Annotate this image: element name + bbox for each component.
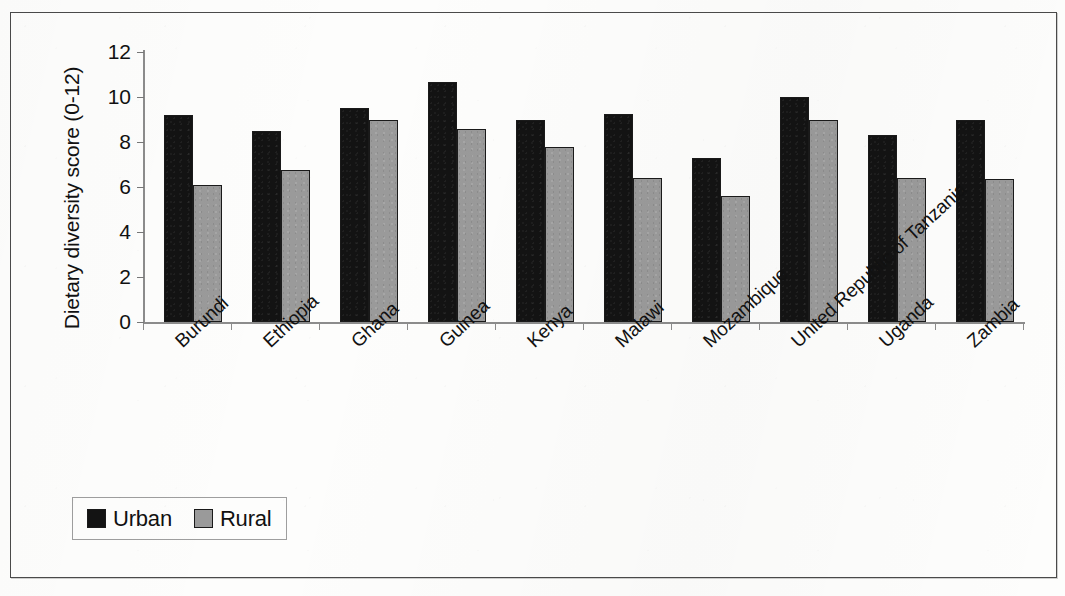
y-axis-title: Dietary diversity score (0-12)	[60, 48, 84, 348]
bar-urban-burundi	[164, 115, 193, 322]
bar-urban-mozambique	[692, 158, 721, 322]
legend-label: Rural	[220, 506, 272, 532]
chart-page: Dietary diversity score (0-12) 121086420…	[0, 0, 1065, 596]
legend-item-urban: Urban	[87, 506, 172, 532]
y-tick-label: 12	[97, 41, 131, 62]
x-tick-mark	[759, 323, 760, 330]
x-tick-mark	[319, 323, 320, 330]
bar-rural-ghana	[369, 120, 398, 323]
bar-urban-uganda	[868, 135, 897, 322]
y-tick-mark	[137, 142, 144, 143]
y-tick-mark	[137, 52, 144, 53]
x-tick-mark	[495, 323, 496, 330]
y-tick-mark	[137, 277, 144, 278]
x-tick-mark	[847, 323, 848, 330]
x-tick-mark	[1023, 323, 1024, 330]
chart-legend: UrbanRural	[72, 497, 287, 540]
y-tick-label: 8	[97, 131, 131, 152]
x-tick-mark	[231, 323, 232, 330]
x-tick-mark	[583, 323, 584, 330]
y-tick-label: 4	[97, 221, 131, 242]
bar-urban-ghana	[340, 108, 369, 322]
bar-urban-united-republic-of-tanzania	[780, 97, 809, 322]
bar-urban-ethiopia	[252, 131, 281, 322]
legend-label: Urban	[113, 506, 172, 532]
bar-urban-kenya	[516, 120, 545, 323]
y-tick-label: 2	[97, 266, 131, 287]
bar-rural-guinea	[457, 129, 486, 323]
x-tick-mark	[671, 323, 672, 330]
gray-square-icon	[194, 509, 213, 528]
y-tick-label: 10	[97, 86, 131, 107]
bar-rural-kenya	[545, 147, 574, 323]
y-tick-label: 0	[97, 311, 131, 332]
y-tick-label: 6	[97, 176, 131, 197]
legend-item-rural: Rural	[194, 506, 272, 532]
x-tick-mark	[143, 323, 144, 330]
x-tick-mark	[407, 323, 408, 330]
y-tick-mark	[137, 97, 144, 98]
bar-urban-guinea	[428, 82, 457, 322]
black-square-icon	[87, 509, 106, 528]
bar-urban-malawi	[604, 114, 633, 322]
bar-urban-zambia	[956, 120, 985, 323]
y-tick-mark	[137, 187, 144, 188]
y-tick-mark	[137, 232, 144, 233]
plot-area: Dietary diversity score (0-12) 121086420…	[0, 0, 1065, 596]
x-tick-mark	[935, 323, 936, 330]
